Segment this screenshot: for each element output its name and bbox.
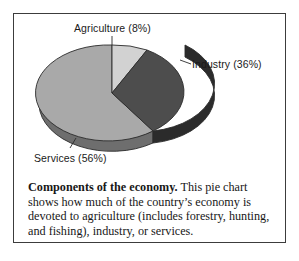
caption-lead: Components of the economy. bbox=[28, 180, 178, 194]
figure-frame: Agriculture (8%) Industry (36%) Services… bbox=[13, 13, 286, 243]
agriculture-label: Agriculture (8%) bbox=[74, 22, 151, 34]
pie-chart: Agriculture (8%) Industry (36%) Services… bbox=[14, 14, 285, 174]
pie-chart-graphic bbox=[14, 14, 285, 174]
figure-caption: Components of the economy. This pie char… bbox=[28, 180, 271, 238]
industry-leader-line bbox=[180, 60, 191, 64]
industry-label: Industry (36%) bbox=[192, 58, 262, 70]
services-label: Services (56%) bbox=[34, 152, 107, 164]
